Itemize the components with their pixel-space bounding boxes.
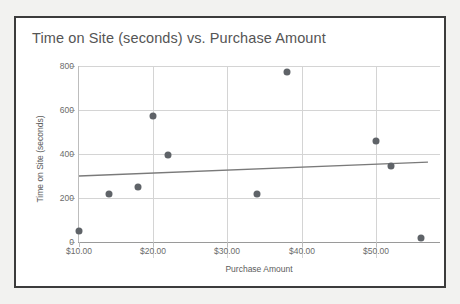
ytick-0: 0 (16, 242, 74, 243)
screenshot-root: Time on Site (seconds) vs. Purchase Amou… (0, 0, 460, 304)
xtick-label-50: $50.00 (363, 246, 389, 256)
gridline-y-600 (78, 110, 440, 111)
scatter-point (387, 163, 394, 170)
gridline-y-400 (78, 154, 440, 155)
gridline-y-200 (78, 198, 440, 199)
scatter-point (76, 227, 83, 234)
scatter-point (105, 191, 112, 198)
xtick-label-30: $30.00 (214, 246, 240, 256)
scatter-point (135, 184, 142, 191)
axis-x-baseline (78, 242, 440, 243)
gridline-x-50 (376, 66, 377, 258)
xtick-label-10: $10.00 (66, 246, 92, 256)
ytick-label: 800 (30, 61, 74, 71)
xtick-label-40: $40.00 (289, 246, 315, 256)
chart-card: Time on Site (seconds) vs. Purchase Amou… (14, 16, 446, 288)
gridline-x-30 (227, 66, 228, 258)
scatter-point (150, 113, 157, 120)
scatter-point (283, 68, 290, 75)
gridline-y-800 (78, 66, 440, 67)
scatter-point (417, 235, 424, 242)
gridline-x-40 (302, 66, 303, 258)
scatter-point (373, 138, 380, 145)
ytick-400: 400 (16, 154, 74, 155)
plot-area: 800 600 400 200 0 $10.00 $20.00 (16, 18, 448, 290)
xtick-label-20: $20.00 (140, 246, 166, 256)
gridline-x-20 (153, 66, 154, 258)
scatter-point (165, 151, 172, 158)
x-axis-title: Purchase Amount (78, 264, 440, 274)
axis-y-line (78, 66, 79, 242)
ytick-800: 800 (16, 66, 74, 67)
ytick-600: 600 (16, 110, 74, 111)
scatter-point (254, 191, 261, 198)
ytick-200: 200 (16, 198, 74, 199)
y-axis-title: Time on Site (seconds) (35, 99, 45, 219)
